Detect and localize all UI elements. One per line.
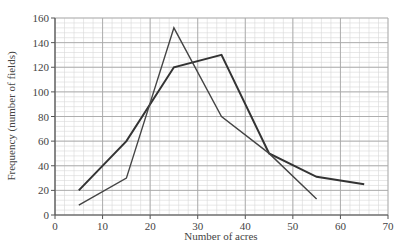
x-axis-title: Number of acres	[184, 230, 257, 242]
x-tick-label: 10	[97, 220, 109, 232]
y-tick-label: 80	[38, 111, 50, 123]
y-tick-label: 20	[38, 184, 50, 196]
frequency-polygon-chart: 010203040506070 020406080100120140160 Nu…	[0, 0, 413, 251]
y-tick-label: 120	[33, 61, 50, 73]
y-tick-label: 100	[33, 86, 50, 98]
axes	[51, 18, 388, 219]
x-tick-label: 0	[52, 220, 58, 232]
x-tick-label: 50	[287, 220, 299, 232]
y-tick-label: 140	[33, 37, 50, 49]
x-tick-label: 20	[145, 220, 157, 232]
y-tick-label: 160	[33, 12, 50, 24]
x-tick-label: 60	[335, 220, 347, 232]
y-axis-title: Frequency (number of fields)	[5, 51, 18, 181]
y-axis-tick-labels: 020406080100120140160	[33, 12, 50, 221]
y-tick-label: 0	[44, 209, 50, 221]
y-tick-label: 60	[38, 135, 50, 147]
x-tick-label: 70	[383, 220, 395, 232]
y-tick-label: 40	[38, 160, 50, 172]
